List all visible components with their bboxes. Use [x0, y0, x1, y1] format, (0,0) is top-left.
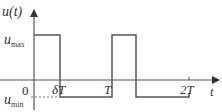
- y-axis-label: u(t): [2, 4, 23, 20]
- origin-label: 0: [22, 83, 29, 98]
- pulse-waveform-diagram: u(t) t 0 umax umin δT T 2T: [0, 0, 222, 112]
- x-axis-label: t: [210, 84, 214, 99]
- tick-label-2T: 2T: [180, 82, 195, 97]
- tick-label-T: T: [104, 82, 112, 97]
- umax-label: umax: [4, 32, 25, 49]
- umin-label: umin: [4, 92, 23, 109]
- waveform-canvas: u(t) t 0 umax umin δT T 2T: [0, 0, 222, 112]
- tick-label-deltaT: δT: [52, 82, 66, 97]
